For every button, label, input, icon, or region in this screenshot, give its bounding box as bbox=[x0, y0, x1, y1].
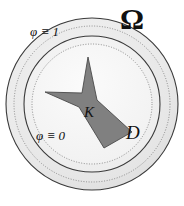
label-phi-equiv-one: φ ≡ 1 bbox=[30, 24, 59, 39]
diagram-figure: φ ≡ 1 Ω φ ≡ 0 D K bbox=[0, 0, 184, 206]
label-domain-d: D bbox=[125, 122, 140, 143]
diagram-canvas: φ ≡ 1 Ω φ ≡ 0 D K bbox=[0, 0, 184, 206]
label-compact-k: K bbox=[83, 104, 95, 120]
label-phi-equiv-zero: φ ≡ 0 bbox=[36, 128, 65, 143]
label-omega: Ω bbox=[120, 2, 144, 35]
